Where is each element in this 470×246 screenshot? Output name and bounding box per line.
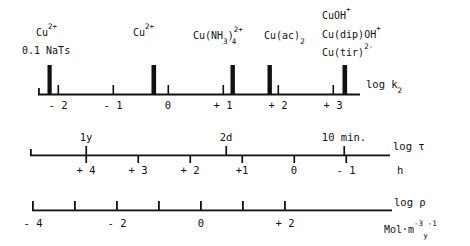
- axis2-marker-label-1y: 1y: [66, 131, 106, 143]
- species-label-cu-nh3-4: Cu(NH3)2+4: [193, 30, 236, 41]
- axis3-tick-label: - 4: [13, 217, 53, 229]
- species-label-cu2-nats-line2: 0.1 NaTs: [22, 45, 70, 56]
- axis-name-log-k2: log k2: [366, 78, 402, 93]
- axis3-tick-label: + 2: [265, 217, 305, 229]
- axis1-tick-label: 0: [148, 99, 188, 111]
- axis2-marker-label-10min: 10 min.: [310, 131, 378, 143]
- axis2-tick-label: + 3: [118, 164, 158, 176]
- axis2-tick-label: - 1: [326, 164, 366, 176]
- scale-figure: Cu2+ 0.1 NaTs Cu2+ Cu(NH3)2+4 Cu(ac)2 Cu…: [0, 0, 470, 246]
- axis2-tick-label: + 2: [170, 164, 210, 176]
- axis2-marker-label-2d: 2d: [206, 131, 246, 143]
- species-label-cu-tir: Cu(tir)2-: [322, 47, 373, 58]
- axis3-tick-label: 0: [181, 217, 221, 229]
- axis-name-log-tau: log τ: [393, 140, 425, 152]
- axis2-tick-label: + 4: [66, 164, 106, 176]
- species-label-cu-dip-oh: Cu(dip)OH+: [322, 29, 381, 40]
- axis-name-log-rho: log ρ: [394, 196, 426, 208]
- axis3-unit: Mol·m-3y-1: [384, 222, 437, 238]
- axis1-tick-label: - 2: [38, 99, 78, 111]
- axis1-tick-label: + 1: [203, 99, 243, 111]
- axis2-tick-label: 0: [274, 164, 314, 176]
- axis3-tick-label: - 2: [97, 217, 137, 229]
- species-label-cuoh: CuOH+: [322, 10, 351, 21]
- axis1-tick-label: + 2: [258, 99, 298, 111]
- axis1-tick-label: + 3: [313, 99, 353, 111]
- species-label-cu2-nats-line1: Cu2+: [36, 27, 57, 38]
- species-label-cu-ac-2: Cu(ac)2: [264, 30, 305, 41]
- species-label-cu2: Cu2+: [133, 27, 154, 38]
- axis1-tick-label: - 1: [93, 99, 133, 111]
- axis2-unit-hours: h: [397, 164, 403, 176]
- axis2-tick-label: +1: [222, 164, 262, 176]
